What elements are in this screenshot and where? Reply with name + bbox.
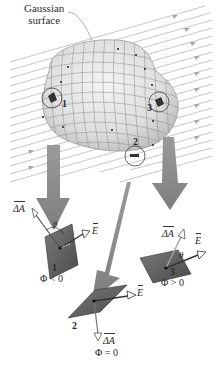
surface-label-leader [68, 12, 92, 40]
surface-marker-1: 1 [62, 99, 67, 109]
surface-label-line1: Gaussian [24, 3, 64, 14]
figure-drawing [0, 0, 221, 367]
surface-marker-2: 2 [133, 137, 138, 147]
patch-2-area-vector-label: ΔA [103, 336, 115, 346]
gaussian-surface-label: Gaussian surface [24, 3, 64, 26]
patch-2-field-vector-label: E [137, 288, 143, 298]
surface-label-line2: surface [24, 15, 64, 26]
patch-3-flux: Φ > 0 [161, 278, 184, 288]
patch-3-theta-label: θ [179, 251, 183, 260]
patch-2-flux: Φ = 0 [95, 348, 118, 358]
patch-1-diagram [32, 208, 90, 279]
patch-2-diagram [68, 285, 136, 341]
patch-1-number: 1 [52, 263, 57, 273]
patch-3-field-vector-label: E [195, 236, 201, 246]
patch-2-number: 2 [72, 321, 77, 331]
patch-1-area-vector-label: ΔA [13, 204, 25, 214]
gaussian-surface-figure: Gaussian surface 1 3 2 ΔA θ E 1 Φ < 0 ΔA… [0, 0, 221, 367]
patch-1-field-vector-label: E [92, 226, 98, 236]
surface-marker-3: 3 [147, 103, 152, 113]
patch-1-theta-label: θ [53, 220, 57, 229]
patch-3-number: 3 [170, 267, 175, 277]
patch-1-flux: Φ < 0 [40, 274, 63, 284]
patch-3-area-vector-label: ΔA [162, 229, 174, 239]
